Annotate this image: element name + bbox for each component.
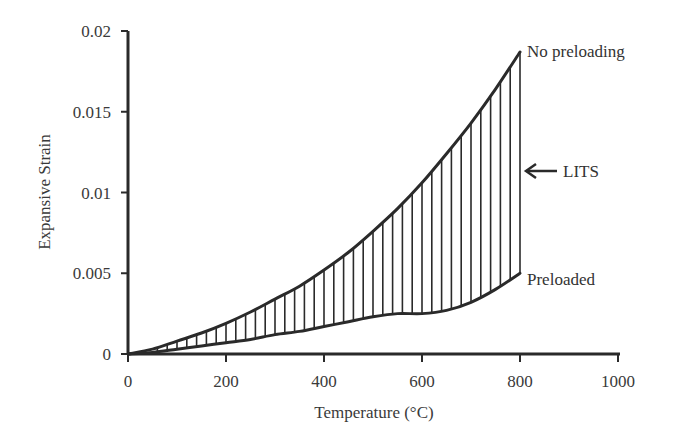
- label-preloaded: Preloaded: [527, 270, 595, 289]
- x-tick-label: 800: [507, 372, 533, 391]
- x-tick-label: 0: [124, 372, 133, 391]
- y-axis-title: Expansive Strain: [35, 134, 54, 250]
- annotations: No preloading Preloaded LITS: [526, 42, 625, 289]
- x-tick-label: 200: [213, 372, 239, 391]
- label-lits: LITS: [563, 162, 599, 181]
- y-tick-label: 0: [103, 345, 112, 364]
- y-tick-label: 0.02: [81, 22, 111, 41]
- lits-arrow-icon: [526, 164, 557, 178]
- lits-hatching: [157, 52, 520, 352]
- y-axis-ticks: 00.0050.010.0150.02: [73, 22, 128, 364]
- label-no-preloading: No preloading: [527, 42, 625, 61]
- x-tick-label: 1000: [601, 372, 635, 391]
- y-tick-label: 0.015: [73, 103, 111, 122]
- x-tick-label: 600: [409, 372, 435, 391]
- x-axis-ticks: 02004006008001000: [124, 354, 635, 391]
- x-tick-label: 400: [311, 372, 337, 391]
- strain-vs-temperature-chart: 02004006008001000 00.0050.010.0150.02 Te…: [0, 0, 688, 446]
- y-tick-label: 0.005: [73, 264, 111, 283]
- y-tick-label: 0.01: [81, 184, 111, 203]
- x-axis-title: Temperature (°C): [314, 403, 433, 422]
